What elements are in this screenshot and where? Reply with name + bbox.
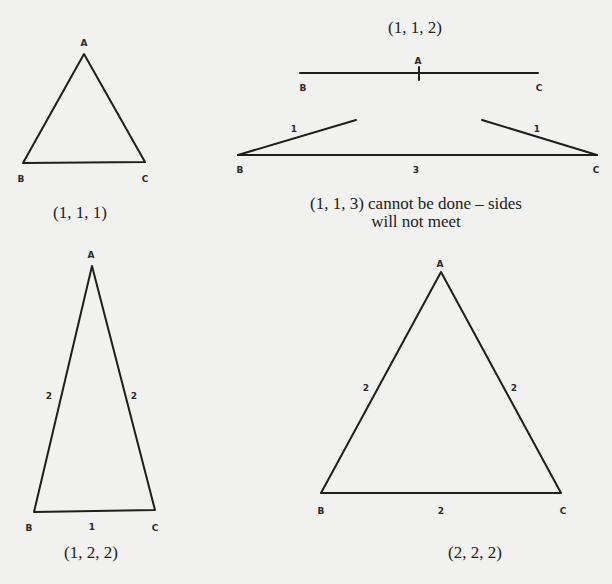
figure-triangle-1-1-1: A B C (1, 1, 1) (18, 38, 149, 222)
vertex-label-a: A (437, 259, 444, 269)
side-label-right: 1 (534, 124, 540, 134)
side-label-ac: 2 (511, 383, 517, 393)
vertex-label-b: B (18, 174, 25, 184)
triangle-shape (23, 54, 145, 163)
triangle-shape (34, 266, 155, 512)
vertex-label-c: C (142, 174, 149, 184)
vertex-label-b: B (26, 523, 33, 533)
vertex-label-b: B (237, 165, 244, 175)
vertex-label-a: A (415, 56, 422, 66)
side-label-ab: 2 (46, 391, 52, 401)
side-label-ab: 2 (363, 383, 369, 393)
side-label-bc: 2 (438, 506, 444, 516)
figure-degenerate-1-1-2: (1, 1, 2) A B C (300, 18, 543, 93)
side-label-base: 3 (413, 165, 419, 175)
figure-triangle-1-2-2: A 2 2 B 1 C (1, 2, 2) (26, 250, 159, 562)
vertex-label-b: B (318, 506, 325, 516)
figure-triangle-2-2-2: A 2 2 B 2 C (2, 2, 2) (318, 259, 567, 562)
vertex-label-c: C (593, 165, 600, 175)
vertex-label-c: C (152, 523, 159, 533)
vertex-label-c: C (560, 506, 567, 516)
figure-caption: (1, 1, 2) (388, 18, 442, 37)
vertex-label-c: C (536, 83, 543, 93)
figure-caption: (1, 2, 2) (64, 543, 118, 562)
side-label-left: 1 (291, 124, 297, 134)
triangle-diagram: A B C (1, 1, 1) (1, 1, 2) A B C 1 1 B 3 … (0, 0, 612, 584)
vertex-label-a: A (81, 38, 88, 48)
figure-impossible-1-1-3: 1 1 B 3 C (1, 1, 3) cannot be done – sid… (237, 120, 600, 231)
figure-caption: (2, 2, 2) (448, 543, 502, 562)
triangle-shape (321, 272, 561, 493)
figure-caption: (1, 1, 1) (53, 203, 107, 222)
vertex-label-a: A (88, 250, 95, 260)
vertex-label-b: B (300, 83, 307, 93)
side-label-bc: 1 (89, 522, 95, 532)
figure-caption-line2: will not meet (371, 212, 461, 231)
side-label-ac: 2 (131, 391, 137, 401)
figure-caption-line1: (1, 1, 3) cannot be done – sides (310, 194, 522, 213)
